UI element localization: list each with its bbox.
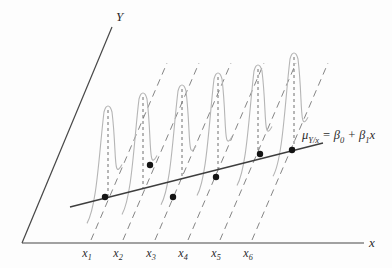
x-tick-label-2: x2: [113, 247, 122, 259]
data-point-dot-5: [257, 151, 263, 157]
data-point-dot-4: [213, 174, 219, 180]
y-axis-line: [22, 27, 112, 243]
regression-equation: μY/x = β0 + β1x: [302, 129, 375, 142]
data-point-dot-3: [170, 194, 176, 200]
normal-curve-x5: [237, 65, 272, 185]
slant-dashed-line-x2: [123, 63, 199, 240]
x-tick-label-3: x3: [146, 247, 155, 259]
normal-curve-x6: [273, 53, 308, 176]
slant-dashed-line-x1: [91, 63, 167, 240]
x-axis-label: x: [369, 236, 375, 249]
regression-figure: Y x μY/x = β0 + β1x x1x2x3x4x5x6: [0, 0, 392, 268]
x-tick-label-5: x5: [211, 247, 220, 259]
x-tick-label-1: x1: [82, 247, 91, 259]
slant-dashed-line-x4: [188, 63, 264, 240]
normal-curve-x3: [161, 85, 196, 205]
x-tick-label-4: x4: [178, 247, 187, 259]
normal-curve-x1: [87, 106, 122, 223]
x-tick-label-6: x6: [243, 247, 252, 259]
y-axis-label: Y: [116, 10, 123, 23]
normal-curve-x2: [122, 93, 157, 215]
data-point-dot-2: [147, 162, 153, 168]
slant-dashed-line-x3: [155, 63, 231, 240]
data-point-dot-6: [289, 147, 295, 153]
data-point-dot-1: [102, 194, 108, 200]
